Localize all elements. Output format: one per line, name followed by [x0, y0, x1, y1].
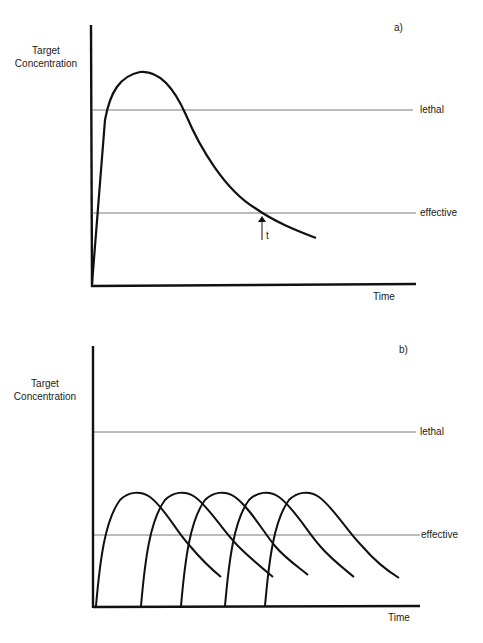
panel-a-x-axis [91, 284, 416, 286]
panel-b-effective-label: effective [421, 529, 458, 541]
panel-b-label: b) [399, 344, 408, 356]
panel-b-ylabel-line1: Target [5, 378, 85, 390]
figure-canvas [0, 0, 483, 643]
panel-a-xlabel: Time [373, 291, 395, 303]
panel-a-ylabel-line2: Concentration [6, 58, 86, 70]
panel-a-effective-label: effective [420, 207, 457, 219]
panel-a-t-annotation: t [266, 230, 269, 242]
panel-b-xlabel: Time [388, 612, 410, 624]
panel-b-dose-curve-4 [225, 493, 354, 606]
panel-a-chart [91, 25, 416, 287]
panel-a-y-axis [91, 25, 92, 287]
panel-b-lethal-label: lethal [420, 426, 444, 438]
panel-a-label: a) [394, 22, 403, 34]
panel-b-dose-curve-2 [141, 493, 273, 606]
panel-b-chart [93, 346, 420, 608]
panel-a-concentration-curve [92, 72, 316, 284]
panel-b-dose-curve-5 [265, 493, 399, 606]
panel-a-arrow-head-icon [258, 216, 266, 222]
panel-b-dose-curve-3 [181, 493, 308, 606]
panel-b-ylabel-line2: Concentration [5, 391, 85, 403]
panel-b-x-axis [93, 606, 420, 607]
panel-a-lethal-label: lethal [420, 104, 444, 116]
panel-a-ylabel-line1: Target [6, 45, 86, 57]
